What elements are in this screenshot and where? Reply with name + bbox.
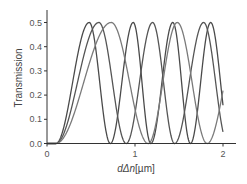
data-curves bbox=[47, 23, 223, 144]
transmission-chart: 0.00.10.20.30.40.5 012 Transmission dΔn[… bbox=[0, 0, 247, 184]
x-axis-title-italic: dΔn bbox=[117, 163, 135, 174]
curve-2-line bbox=[47, 23, 223, 144]
y-tick-label: 0.0 bbox=[29, 139, 42, 149]
y-tick-label: 0.1 bbox=[29, 114, 42, 124]
x-axis-title-unit: [µm] bbox=[135, 163, 155, 174]
y-tick-label: 0.5 bbox=[29, 18, 42, 28]
x-tick-label: 2 bbox=[220, 149, 225, 159]
x-tick-label: 0 bbox=[44, 149, 49, 159]
y-tick-label: 0.3 bbox=[29, 66, 42, 76]
y-tick-label: 0.2 bbox=[29, 90, 42, 100]
x-ticks: 012 bbox=[44, 144, 225, 160]
y-axis-title: Transmission bbox=[13, 48, 24, 107]
y-ticks: 0.00.10.20.30.40.5 bbox=[29, 18, 47, 149]
x-axis-title: dΔn[µm] bbox=[117, 163, 155, 174]
x-tick-label: 1 bbox=[132, 149, 137, 159]
y-tick-label: 0.4 bbox=[29, 42, 42, 52]
